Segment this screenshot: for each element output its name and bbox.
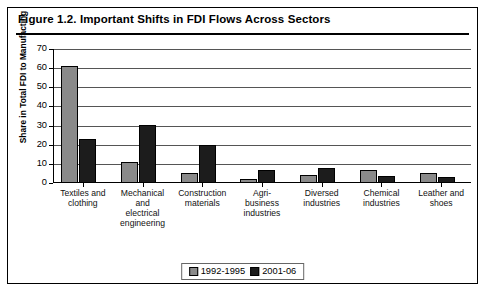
legend-swatch-icon [250,267,259,276]
figure-frame: Figure 1.2. Important Shifts in FDI Flow… [7,7,478,284]
legend-label: 2001-06 [262,266,296,276]
y-axis-tick [49,126,53,127]
title-divider [16,33,469,35]
legend-item: 2001-06 [250,266,296,276]
y-axis-tick [49,145,53,146]
figure-title: Figure 1.2. Important Shifts in FDI Flow… [18,13,468,33]
x-axis-tick [262,183,263,187]
x-axis-label: Leather andshoes [404,188,478,208]
y-axis-tick [49,49,53,50]
y-axis-tick-label: 0 [25,178,47,187]
y-axis-tick-label: 50 [25,82,47,91]
x-axis-tick [83,183,84,187]
legend-label: 1992-1995 [201,266,245,276]
y-axis-tick-label: 20 [25,140,47,149]
y-axis-tick-label: 40 [25,101,47,110]
plot-axes [53,49,471,183]
x-axis-tick [441,183,442,187]
y-axis-tick [49,183,53,184]
y-axis-tick [49,164,53,165]
legend-swatch-icon [189,267,198,276]
chart-legend: 1992-19952001-06 [181,263,305,280]
x-axis-tick [143,183,144,187]
x-axis-tick [381,183,382,187]
x-axis-label-line: shoes [404,198,478,208]
legend-item: 1992-1995 [189,266,245,276]
y-axis-tick-label: 30 [25,121,47,130]
x-axis-label-line: industries [225,208,299,218]
y-axis-tick [49,106,53,107]
y-axis-tick [49,87,53,88]
y-axis-tick [49,68,53,69]
x-axis-tick [202,183,203,187]
x-axis-label-line: engineering [106,218,180,228]
x-axis-tick [322,183,323,187]
plot-area [53,49,471,183]
y-axis-tick-label: 70 [25,44,47,53]
y-axis-tick-label: 60 [25,63,47,72]
x-axis-label-line: Leather and [404,188,478,198]
x-axis-label-line: electrical [106,208,180,218]
y-axis-tick-label: 10 [25,159,47,168]
